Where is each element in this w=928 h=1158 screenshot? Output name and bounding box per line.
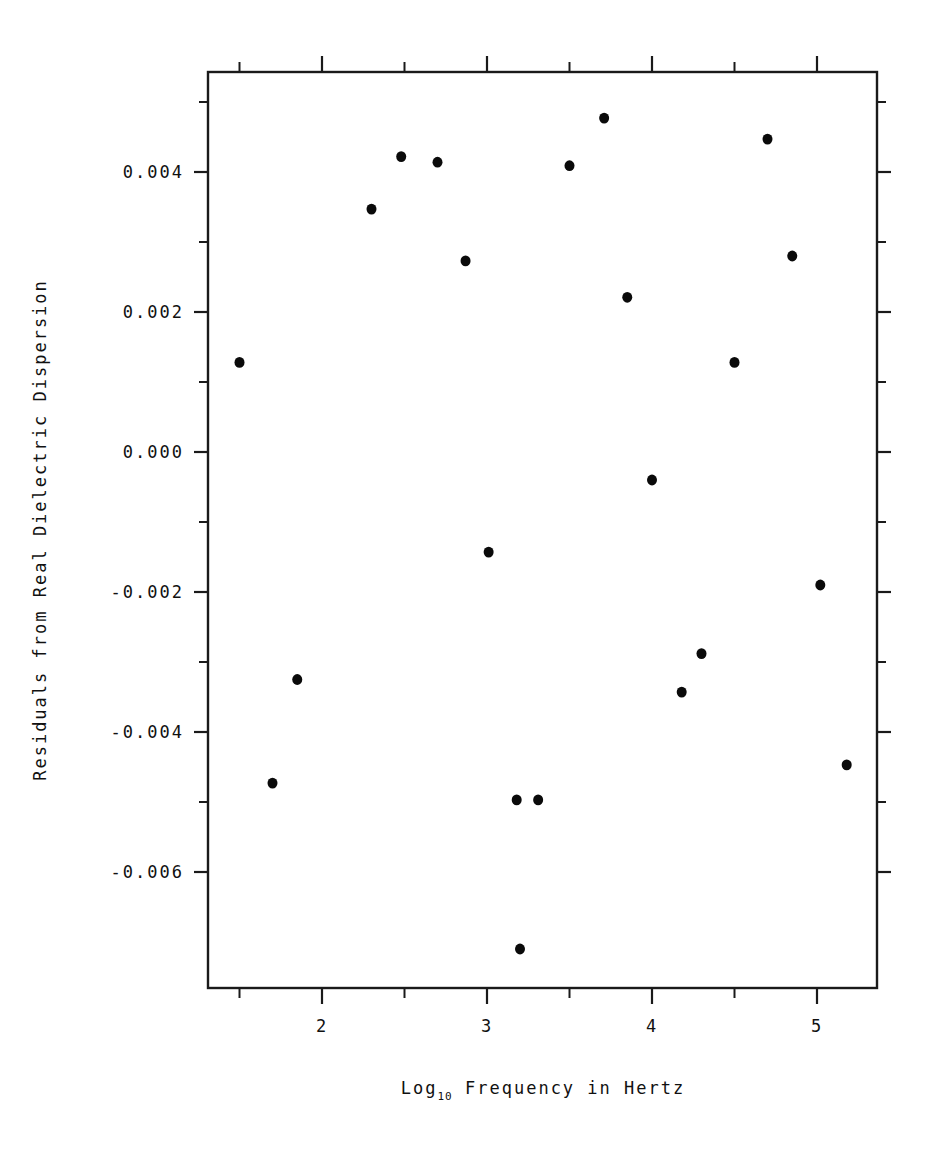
scatter-point [697, 648, 707, 659]
scatter-point [433, 157, 443, 168]
x-axis-title-base: Log [401, 1078, 438, 1098]
scatter-point [599, 113, 609, 124]
scatter-point [292, 674, 302, 685]
x-tick-label: 3 [481, 1016, 493, 1036]
scatter-point [268, 778, 278, 789]
scatter-point [647, 475, 657, 486]
scatter-point [515, 944, 525, 955]
scatter-point [787, 251, 797, 262]
scatter-point [461, 256, 471, 267]
scatter-point [763, 134, 773, 145]
plot-canvas: 0.0040.0020.000-0.002-0.004-0.006 2345 R… [0, 0, 928, 1158]
scatter-point [235, 357, 245, 368]
scatter-point [565, 160, 575, 171]
y-tick-label: -0.004 [111, 722, 184, 742]
y-tick-label: 0.002 [123, 302, 184, 322]
scatter-point [815, 580, 825, 591]
x-tick-label: 4 [646, 1016, 658, 1036]
scatter-point [622, 292, 632, 303]
y-axis-title: Residuals from Real Dielectric Dispersio… [30, 279, 50, 781]
scatter-point [730, 357, 740, 368]
scatter-point [396, 151, 406, 162]
scatter-point [512, 795, 522, 806]
scatter-point [677, 687, 687, 698]
y-tick-label: 0.000 [123, 442, 184, 462]
scatter-point [533, 795, 543, 806]
y-tick-label: 0.004 [123, 162, 184, 182]
scatter-point [484, 547, 494, 558]
x-tick-label: 5 [811, 1016, 823, 1036]
x-tick-label: 2 [316, 1016, 328, 1036]
scatter-plot-figure: 0.0040.0020.000-0.002-0.004-0.006 2345 R… [0, 0, 928, 1158]
y-tick-label: -0.002 [111, 582, 184, 602]
scatter-point [842, 760, 852, 771]
scatter-point [367, 204, 377, 215]
x-axis-title-subscript: 10 [438, 1090, 453, 1103]
y-tick-label: -0.006 [111, 862, 184, 882]
x-axis-title-rest: Frequency in Hertz [453, 1078, 685, 1098]
